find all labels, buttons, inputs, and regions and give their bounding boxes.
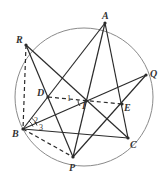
angle-label-3: 3 [39,123,43,132]
label-A: A [101,10,109,21]
label-C: C [130,139,137,150]
point-R [24,43,27,46]
angle-labels: 123 [34,94,71,132]
label-D: D [36,87,44,98]
label-R: R [15,34,23,45]
angle-label-2: 2 [34,116,38,125]
point-D [46,95,49,98]
point-B [21,127,24,130]
point-Q [144,73,147,76]
geometry-figure: ARQDIEBCP 123 [0,0,168,178]
point-P [71,155,74,158]
segment-RP [26,45,73,157]
diagram-canvas: ARQDIEBCP 123 [0,0,168,178]
angle-label-1: 1 [67,94,71,103]
label-B: B [11,128,19,139]
point-A [103,21,106,24]
label-E: E [123,102,131,113]
label-Q: Q [150,68,157,79]
segment-RB [23,45,26,129]
label-P: P [69,162,76,173]
point-labels: ARQDIEBCP [11,10,157,173]
